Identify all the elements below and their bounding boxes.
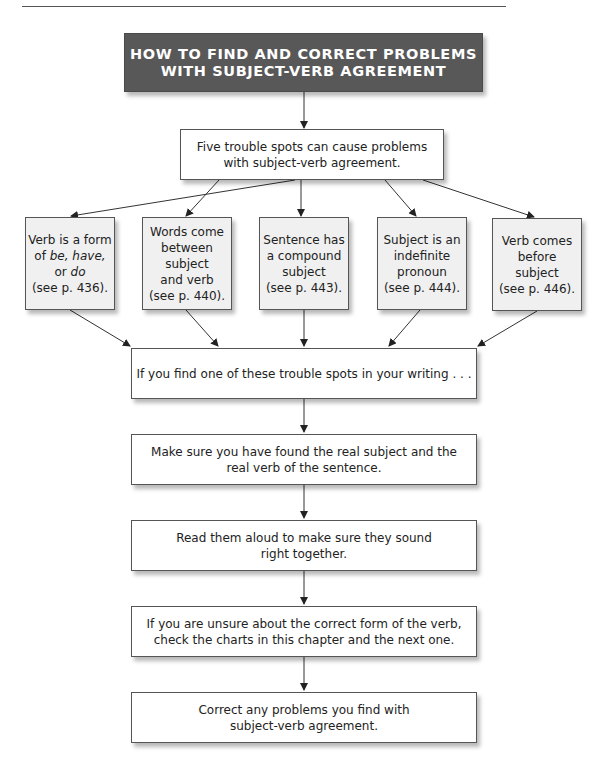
- step-text: subject-verb agreement.: [198, 718, 409, 734]
- step-text: Correct any problems you find with: [198, 702, 409, 718]
- spot-text: a compound: [263, 248, 344, 264]
- step-find-real-subject-verb: Make sure you have found the real subjec…: [131, 434, 477, 485]
- page-reference: (see p. 444).: [383, 280, 460, 296]
- spot-text: before subject: [495, 249, 579, 281]
- spot-text-italic: do: [71, 265, 86, 279]
- title-line-2: WITH SUBJECT-VERB AGREEMENT: [130, 63, 477, 80]
- page-reference: (see p. 436).: [28, 280, 112, 296]
- spot-text: Verb comes: [495, 233, 579, 249]
- page-reference: (see p. 443).: [263, 280, 344, 296]
- step-text: If you are unsure about the correct form…: [147, 616, 462, 632]
- step-text: right together.: [176, 546, 432, 562]
- spot-text: Subject is an: [383, 232, 460, 248]
- spot-text: between subject: [145, 240, 229, 272]
- page-reference: (see p. 446).: [495, 281, 579, 297]
- trouble-spot-compound-subject: Sentence has a compound subject (see p. …: [259, 217, 349, 310]
- title-line-1: HOW TO FIND AND CORRECT PROBLEMS: [130, 46, 477, 63]
- intro-line-1: Five trouble spots can cause problems: [197, 139, 427, 155]
- step-text: check the charts in this chapter and the…: [147, 632, 462, 648]
- flowchart-title-box: HOW TO FIND AND CORRECT PROBLEMS WITH SU…: [124, 33, 483, 92]
- trouble-spot-verb-before-subject: Verb comes before subject (see p. 446).: [492, 218, 582, 311]
- spot-text: subject: [263, 264, 344, 280]
- spot-text: indefinite: [383, 248, 460, 264]
- step-read-aloud: Read them aloud to make sure they sound …: [131, 520, 477, 571]
- step-text: If you find one of these trouble spots i…: [137, 366, 472, 382]
- trouble-spot-words-between: Words come between subject and verb (see…: [142, 217, 232, 310]
- spot-text: Verb is a form: [28, 232, 112, 248]
- spot-text-italic: be, have,: [50, 249, 106, 263]
- step-text: Read them aloud to make sure they sound: [176, 530, 432, 546]
- spot-text: and verb: [145, 272, 229, 288]
- intro-line-2: with subject-verb agreement.: [197, 155, 427, 171]
- step-text: Make sure you have found the real subjec…: [151, 444, 457, 460]
- spot-text: pronoun: [383, 264, 460, 280]
- trouble-spot-be-have-do: Verb is a form of be, have, or do (see p…: [25, 217, 115, 310]
- intro-box: Five trouble spots can cause problems wi…: [180, 129, 444, 180]
- step-check-charts: If you are unsure about the correct form…: [131, 606, 477, 657]
- spot-text: Sentence has: [263, 232, 344, 248]
- page-reference: (see p. 440).: [145, 288, 229, 304]
- step-text: real verb of the sentence.: [151, 460, 457, 476]
- step-correct-problems: Correct any problems you find with subje…: [131, 692, 477, 743]
- spot-text: of: [34, 249, 49, 263]
- spot-text: Words come: [145, 224, 229, 240]
- step-find-trouble-spot: If you find one of these trouble spots i…: [131, 348, 477, 399]
- spot-text: or: [54, 265, 70, 279]
- trouble-spot-indefinite-pronoun: Subject is an indefinite pronoun (see p.…: [377, 217, 467, 310]
